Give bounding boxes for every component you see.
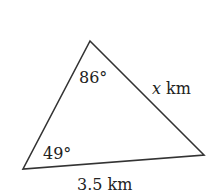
angle-top-label: 86° bbox=[79, 68, 107, 87]
triangle-diagram: 86° 49° x km 3.5 km bbox=[0, 0, 209, 196]
side-right-label: x km bbox=[152, 79, 191, 98]
side-right-unit: km bbox=[161, 79, 191, 98]
side-bottom-label: 3.5 km bbox=[77, 175, 132, 194]
angle-bottom-left-label: 49° bbox=[43, 144, 71, 163]
side-right-variable: x bbox=[152, 79, 161, 98]
